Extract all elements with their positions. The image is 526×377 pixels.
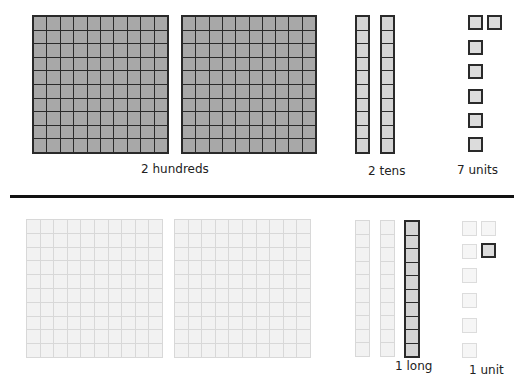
grid-cell: [289, 139, 301, 152]
grid-cell: [216, 303, 229, 316]
grid-cell: [210, 126, 222, 139]
grid-cell: [54, 275, 67, 288]
grid-cell: [128, 71, 140, 84]
grid-cell: [243, 275, 256, 288]
grid-cell: [34, 112, 46, 125]
grid-cell: [236, 126, 248, 139]
grid-cell: [149, 220, 162, 233]
grid-cell: [270, 303, 283, 316]
grid-cell: [189, 317, 202, 330]
grid-cell: [81, 261, 94, 274]
grid-cell: [263, 85, 275, 98]
grid-cell: [202, 289, 215, 302]
grid-cell: [74, 139, 86, 152]
grid-cell: [284, 344, 297, 357]
grid-cell: [68, 303, 81, 316]
grid-cell: [34, 126, 46, 139]
grid-cell: [88, 126, 100, 139]
grid-cell: [243, 303, 256, 316]
grid-cell: [54, 220, 67, 233]
grid-cell: [297, 289, 310, 302]
grid-cell: [263, 126, 275, 139]
grid-cell: [74, 58, 86, 71]
rod-cell: [382, 126, 393, 139]
grid-cell: [155, 85, 167, 98]
grid-cell: [243, 317, 256, 330]
grid-cell: [243, 330, 256, 343]
unit-cube-2: [487, 15, 502, 30]
grid-cell: [202, 234, 215, 247]
grid-cell: [141, 71, 153, 84]
rod-cell: [406, 222, 418, 235]
grid-cell: [250, 112, 262, 125]
rod-cell: [356, 303, 369, 316]
grid-cell: [114, 112, 126, 125]
grid-cell: [236, 44, 248, 57]
grid-cell: [101, 71, 113, 84]
hundreds-label: 2 hundreds: [141, 162, 209, 176]
grid-cell: [243, 344, 256, 357]
grid-cell: [155, 17, 167, 30]
grid-cell: [41, 344, 54, 357]
grid-cell: [183, 44, 195, 57]
rod-cell: [382, 17, 393, 30]
grid-cell: [183, 58, 195, 71]
grid-cell: [250, 58, 262, 71]
grid-cell: [196, 99, 208, 112]
units-label: 7 units: [457, 163, 498, 177]
grid-cell: [175, 261, 188, 274]
grid-cell: [263, 112, 275, 125]
grid-cell: [95, 261, 108, 274]
grid-cell: [236, 85, 248, 98]
grid-cell: [210, 139, 222, 152]
grid-cell: [34, 139, 46, 152]
grid-cell: [223, 139, 235, 152]
grid-cell: [284, 248, 297, 261]
tens-label: 2 tens: [368, 164, 405, 178]
grid-cell: [101, 44, 113, 57]
grid-cell: [34, 58, 46, 71]
grid-cell: [128, 85, 140, 98]
grid-cell: [189, 261, 202, 274]
unit-cube-4: [468, 64, 483, 79]
grid-cell: [109, 289, 122, 302]
grid-cell: [122, 261, 135, 274]
grid-cell: [41, 234, 54, 247]
grid-cell: [109, 234, 122, 247]
grid-cell: [27, 303, 40, 316]
grid-cell: [54, 234, 67, 247]
grid-cell: [210, 44, 222, 57]
grid-cell: [141, 112, 153, 125]
grid-cell: [189, 275, 202, 288]
rod-cell: [356, 316, 369, 329]
grid-cell: [149, 234, 162, 247]
grid-cell: [141, 139, 153, 152]
grid-cell: [202, 344, 215, 357]
faded-unit-1: [462, 221, 477, 236]
grid-cell: [202, 303, 215, 316]
grid-cell: [257, 261, 270, 274]
grid-cell: [210, 112, 222, 125]
grid-cell: [289, 126, 301, 139]
grid-cell: [270, 289, 283, 302]
rod-cell: [357, 85, 368, 98]
rod-cell: [381, 316, 394, 329]
grid-cell: [175, 220, 188, 233]
grid-cell: [54, 289, 67, 302]
grid-cell: [114, 139, 126, 152]
rod-cell: [357, 17, 368, 30]
grid-cell: [88, 58, 100, 71]
grid-cell: [276, 17, 288, 30]
grid-cell: [263, 17, 275, 30]
unit-label: 1 unit: [469, 363, 504, 377]
grid-cell: [141, 58, 153, 71]
grid-cell: [202, 317, 215, 330]
grid-cell: [136, 289, 149, 302]
grid-cell: [216, 289, 229, 302]
grid-cell: [47, 44, 59, 57]
grid-cell: [61, 58, 73, 71]
grid-cell: [236, 99, 248, 112]
grid-cell: [289, 99, 301, 112]
grid-cell: [74, 44, 86, 57]
grid-cell: [210, 58, 222, 71]
